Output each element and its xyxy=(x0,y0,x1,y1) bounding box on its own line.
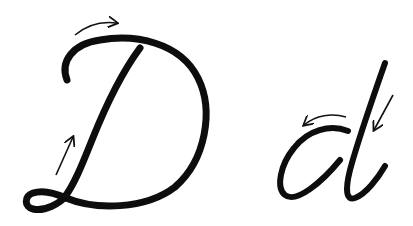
lowercase-d-stem-stroke xyxy=(347,63,385,198)
letter-lowercase-d xyxy=(280,63,393,198)
uppercase-d-stem-stroke xyxy=(64,48,140,198)
bowl-arc-arrow-icon xyxy=(304,115,346,125)
letter-uppercase-d xyxy=(26,22,206,209)
cursive-d-diagram xyxy=(0,0,413,226)
top-arc-arrow-icon xyxy=(75,22,117,35)
stem-down-arrow-icon xyxy=(374,95,393,130)
uppercase-d-bowl-stroke xyxy=(26,38,206,209)
stem-up-arrow-icon xyxy=(56,137,73,175)
lowercase-d-bowl-stroke xyxy=(280,128,348,197)
